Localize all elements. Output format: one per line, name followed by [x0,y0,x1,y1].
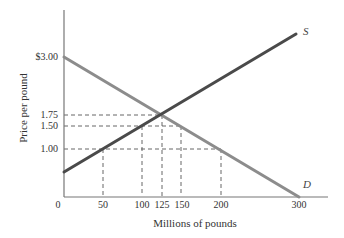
guide-lines [64,115,221,196]
supply-curve [64,34,296,172]
demand-label: D [302,178,311,190]
supply-label: S [303,25,309,37]
x-tick-125: 125 [155,199,170,210]
demand-curve [64,57,299,197]
x-tick-50: 50 [98,199,108,210]
y-tick-100: 1.00 [41,143,59,154]
x-tick-300: 300 [292,199,307,210]
x-tick-200: 200 [214,199,229,210]
x-tick-150: 150 [175,199,190,210]
y-axis-title: Price per pound [17,73,29,143]
x-axis-title: Millions of pounds [153,217,237,229]
x-tick-0: 0 [56,199,61,210]
y-tick-175: 1.75 [41,109,59,120]
y-tick-300: $3.00 [36,51,59,62]
x-tick-100: 100 [135,199,150,210]
supply-demand-chart: S D $3.00 1.75 1.50 1.00 0 50 100 125 15… [0,0,344,238]
y-tick-150: 1.50 [41,120,59,131]
